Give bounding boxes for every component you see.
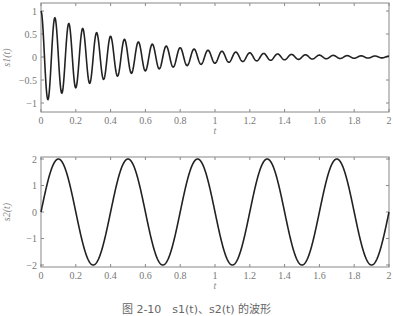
- signal-curve: [41, 159, 389, 265]
- x-tick-label: 0.6: [139, 115, 152, 126]
- x-tick-label: 1.8: [348, 115, 361, 126]
- x-tick-label: 0.6: [139, 270, 152, 281]
- x-tick-label: 0: [39, 270, 44, 281]
- x-tick-label: 1.8: [348, 270, 361, 281]
- x-tick-label: 0.4: [104, 115, 117, 126]
- x-axis-label: t: [214, 280, 217, 291]
- x-tick-label: 2: [387, 270, 392, 281]
- x-tick-label: 0.8: [174, 270, 187, 281]
- x-tick-label: 1.2: [244, 270, 257, 281]
- x-tick-label: 0.4: [104, 270, 117, 281]
- y-tick-label: 0: [32, 207, 37, 218]
- x-tick-label: 0.8: [174, 115, 187, 126]
- x-tick-label: 0.2: [70, 115, 83, 126]
- y-tick-label: 0.5: [25, 29, 38, 40]
- signal-curve: [41, 11, 389, 99]
- x-tick-label: 0: [39, 115, 44, 126]
- y-tick-label: −2: [26, 260, 37, 271]
- y-tick-label: −0.5: [19, 75, 37, 86]
- figure-caption: 图 2-10 s1(t)、s2(t) 的波形: [0, 300, 393, 316]
- x-tick-label: 1.4: [278, 115, 291, 126]
- x-tick-label: 1.6: [313, 270, 326, 281]
- y-tick-label: −1: [26, 233, 37, 244]
- y-tick-label: 2: [32, 154, 37, 165]
- y-tick-label: 1: [32, 180, 37, 191]
- bottom-plot: 00.20.40.60.811.21.41.61.82−2−1012ts2(t): [1, 154, 392, 292]
- x-tick-label: 2: [387, 115, 392, 126]
- x-tick-label: 1.4: [278, 270, 291, 281]
- y-axis-label: s1(t): [1, 48, 13, 67]
- y-tick-label: −1: [26, 98, 37, 109]
- x-axis-label: t: [214, 125, 217, 136]
- y-tick-label: 1: [32, 6, 37, 17]
- top-plot: 00.20.40.60.811.21.41.61.82−1−0.500.51ts…: [1, 3, 392, 136]
- x-tick-label: 0.2: [70, 270, 83, 281]
- x-tick-label: 1.6: [313, 115, 326, 126]
- x-tick-label: 1.2: [244, 115, 257, 126]
- y-tick-label: 0: [32, 52, 37, 63]
- y-axis-label: s2(t): [1, 202, 13, 221]
